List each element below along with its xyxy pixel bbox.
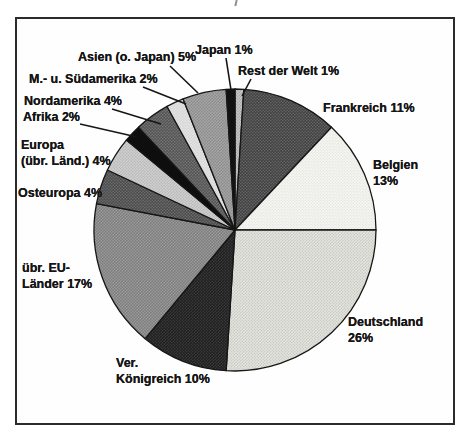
- chart-figure: Japan 1%Rest der Welt 1%Asien (o. Japan)…: [0, 0, 472, 442]
- slice-label-europa-uebr-laend: Europa(übr. Länd.) 4%: [21, 138, 111, 169]
- slice-label-japan: Japan 1%: [195, 43, 253, 59]
- slice-label-uebr-eu-laender: übr. EU-Länder 17%: [22, 261, 92, 292]
- slice-label-m-u-suedamerika: M.- u. Südamerika 2%: [29, 72, 158, 88]
- slice-label-frankreich: Frankreich 11%: [323, 101, 415, 117]
- slice-label-afrika: Afrika 2%: [23, 110, 80, 126]
- slice-label-osteuropa: Osteuropa 4%: [18, 186, 102, 202]
- slice-label-ver-koenigreich: Ver.Königreich 10%: [116, 356, 210, 387]
- slice-label-deutschland: Deutschland26%: [348, 315, 423, 346]
- slice-label-belgien: Belgien13%: [373, 158, 418, 189]
- slice-label-asien-o-japan: Asien (o. Japan) 5%: [78, 50, 196, 66]
- slice-label-rest-der-welt: Rest der Welt 1%: [238, 64, 339, 80]
- slice-labels: Japan 1%Rest der Welt 1%Asien (o. Japan)…: [0, 0, 472, 442]
- slice-label-nordamerika: Nordamerika 4%: [24, 94, 122, 110]
